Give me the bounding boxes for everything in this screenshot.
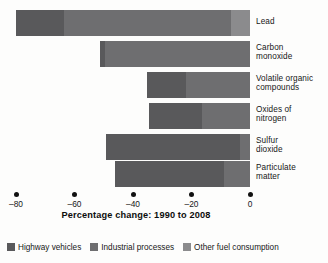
legend-label: Highway vehicles — [18, 243, 81, 252]
legend-swatch-icon — [7, 243, 15, 251]
bar-row: Sulfur dioxide — [0, 134, 328, 160]
category-label-sulfur-dioxide: Sulfur dioxide — [256, 136, 283, 155]
category-label-oxides-of-nitrogen: Oxides of nitrogen — [256, 105, 292, 124]
chart-container: Lead Carbon monoxide Volatile organic co… — [0, 0, 328, 263]
legend-label: Industrial processes — [101, 243, 174, 252]
legend-item-industrial-processes: Industrial processes — [90, 243, 174, 252]
bar-segment-highway — [149, 103, 202, 129]
bar-segment-industrial — [186, 72, 250, 98]
bar-segment-highway — [115, 161, 224, 187]
legend-swatch-icon — [183, 243, 191, 251]
x-tick-dot — [248, 192, 253, 197]
legend-label: Other fuel consumption — [194, 243, 279, 252]
x-tick-dot — [72, 192, 77, 197]
bar-segment-highway — [147, 72, 186, 98]
legend-item-highway-vehicles: Highway vehicles — [7, 243, 81, 252]
x-tick-dot — [189, 192, 194, 197]
bar-row: Oxides of nitrogen — [0, 103, 328, 129]
category-label-volatile-organic-compounds: Volatile organic compounds — [256, 74, 313, 93]
category-label-particulate-matter: Particulate matter — [256, 163, 296, 182]
category-label-lead: Lead — [256, 17, 275, 26]
x-tick-label: –60 — [58, 199, 92, 209]
bar-row: Particulate matter — [0, 161, 328, 187]
plot-area: Lead Carbon monoxide Volatile organic co… — [0, 0, 328, 190]
bar-row: Lead — [0, 10, 328, 36]
bar-row: Carbon monoxide — [0, 41, 328, 67]
bar-segment-highway — [106, 134, 240, 160]
bar-segment-industrial — [240, 134, 250, 160]
x-tick-dot — [14, 192, 19, 197]
category-label-carbon-monoxide: Carbon monoxide — [256, 43, 292, 62]
bar-segment-industrial — [64, 10, 232, 36]
legend: Highway vehicles Industrial processes Ot… — [7, 239, 321, 255]
legend-item-other-fuel-consumption: Other fuel consumption — [183, 243, 279, 252]
bar-row: Volatile organic compounds — [0, 72, 328, 98]
x-axis-title: Percentage change: 1990 to 2008 — [0, 210, 272, 220]
x-tick-dot — [131, 192, 136, 197]
x-tick-label: –40 — [116, 199, 150, 209]
bar-segment-highway — [16, 10, 64, 36]
legend-swatch-icon — [90, 243, 98, 251]
bar-segment-otherfuel — [231, 10, 250, 36]
bar-segment-industrial — [224, 161, 250, 187]
x-tick-label: –20 — [175, 199, 209, 209]
bar-segment-industrial — [105, 41, 250, 67]
x-tick-label: –80 — [0, 199, 33, 209]
x-tick-label: 0 — [233, 199, 267, 209]
bar-segment-industrial — [202, 103, 250, 129]
